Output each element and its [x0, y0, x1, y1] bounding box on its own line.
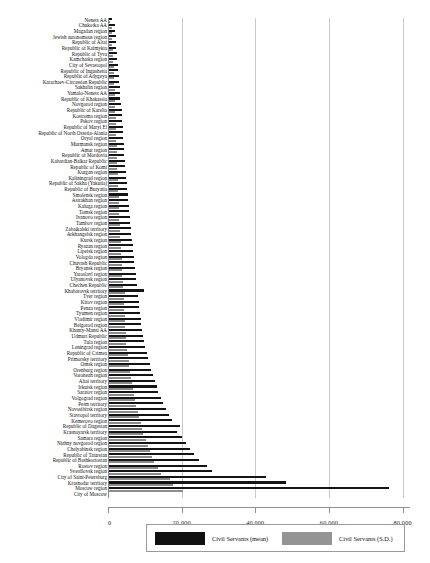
x-tick — [329, 508, 330, 513]
legend-label-sd: Civil Servants (S.D.) — [339, 535, 393, 542]
category-label: City of Moscow — [0, 492, 107, 498]
legend-label-mean: Civil Servants (mean) — [212, 535, 268, 542]
plot-area: Nenets AAChukotka AAMagadan regionJewish… — [108, 18, 410, 498]
chart-legend: Civil Servants (mean) Civil Servants (S.… — [146, 524, 405, 552]
bar-rows-container: Nenets AAChukotka AAMagadan regionJewish… — [108, 18, 410, 498]
x-tick — [182, 508, 183, 513]
x-tick — [403, 508, 404, 513]
legend-item-sd: Civil Servants (S.D.) — [282, 532, 393, 545]
legend-item-mean: Civil Servants (mean) — [155, 532, 268, 545]
legend-swatch-sd — [282, 532, 332, 545]
bar-row: City of Moscow — [108, 492, 410, 498]
x-tick-label: 0 — [108, 519, 111, 526]
chart-root: Nenets AAChukotka AAMagadan regionJewish… — [0, 0, 430, 563]
x-tick — [108, 508, 109, 513]
legend-swatch-mean — [155, 532, 205, 545]
x-axis-line — [108, 507, 410, 508]
x-tick — [255, 508, 256, 513]
